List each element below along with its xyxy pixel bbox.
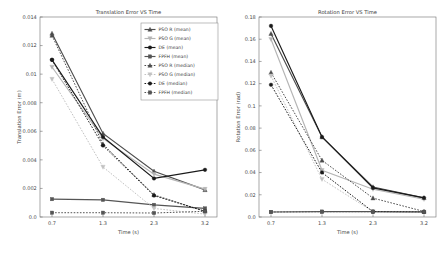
series-line (271, 26, 424, 198)
y-tick-label: 0.16 (245, 36, 256, 42)
legend-label: PSO G (mean) (159, 36, 192, 41)
translation-error-panel: Translation Error VS Time0.00.0020.0040.… (0, 0, 223, 253)
x-tick-label: 3.2 (201, 220, 209, 226)
series-line (271, 76, 424, 212)
y-tick-label: 0.12 (245, 80, 256, 86)
x-tick-label: 3.2 (420, 220, 428, 226)
figure-root: Translation Error VS Time0.00.0020.0040.… (0, 0, 446, 253)
legend-marker (148, 46, 152, 50)
y-axis-label-rotation: Rotation Error (rad) (235, 92, 241, 142)
y-tick-label: 0.1 (248, 103, 256, 109)
legend-label: FPFH (median) (159, 90, 193, 95)
data-point (50, 58, 54, 62)
legend-label: DE (mean) (159, 45, 184, 50)
x-axis-label-rotation: Time (s) (336, 229, 358, 235)
series-line (271, 73, 424, 212)
data-point (422, 210, 425, 213)
x-tick-label: 0.7 (48, 220, 56, 226)
y-tick-label: 0.014 (22, 14, 36, 20)
rotation-error-chart: Rotation Error VS Time0.00.020.040.060.0… (223, 0, 446, 253)
series-translation-3 (50, 197, 206, 210)
y-tick-label: 0.01 (26, 71, 37, 77)
series-line (271, 34, 424, 198)
legend-item[interactable]: DE (mean) (145, 45, 184, 50)
data-point (269, 83, 273, 87)
y-tick-label: 0.02 (245, 192, 256, 198)
legend-label: DE (median) (159, 81, 188, 86)
data-point (203, 168, 207, 172)
data-point (269, 70, 273, 74)
y-tick-label: 0.06 (245, 147, 256, 153)
data-point (320, 171, 324, 175)
legend-marker (148, 82, 152, 86)
series-line (271, 39, 424, 199)
data-point (371, 186, 375, 190)
y-axis-translation: 0.00.0020.0040.0060.0080.010.0120.014 (22, 14, 42, 220)
x-tick-label: 1.3 (318, 220, 326, 226)
y-tick-label: 0.04 (245, 169, 256, 175)
legend-box (141, 23, 218, 100)
x-tick-label: 0.7 (267, 220, 275, 226)
data-point (50, 197, 53, 200)
y-tick-label: 0.0 (29, 214, 37, 220)
data-point (152, 203, 155, 206)
x-tick-label: 2.3 (150, 220, 158, 226)
series-rotation-1 (269, 37, 426, 201)
x-axis-translation: 0.71.32.33.2 (48, 214, 209, 225)
y-axis-label-translation: Translation Error (m) (16, 90, 22, 144)
legend-marker (148, 55, 151, 58)
y-tick-label: 0.14 (245, 58, 256, 64)
y-tick-label: 0.004 (22, 157, 36, 163)
y-tick-label: 0.18 (245, 14, 256, 20)
series-rotation-2 (269, 24, 426, 200)
data-point (50, 77, 54, 81)
rotation-error-panel: Rotation Error VS Time0.00.020.040.060.0… (223, 0, 446, 253)
data-point (50, 211, 53, 214)
x-tick-label: 2.3 (369, 220, 377, 226)
x-tick-label: 1.3 (99, 220, 107, 226)
data-point (101, 198, 104, 201)
legend-marker (148, 91, 151, 94)
data-point (152, 177, 156, 181)
y-tick-label: 0.012 (22, 42, 36, 48)
legend-label: PSO G (median) (159, 72, 196, 77)
x-axis-rotation: 0.71.32.33.2 (267, 214, 428, 225)
data-point (101, 211, 104, 214)
legend-label: PSO R (median) (159, 63, 195, 68)
data-point (101, 135, 105, 139)
data-point (269, 31, 273, 35)
series-rotation-0 (269, 31, 426, 199)
y-tick-label: 0.002 (22, 185, 36, 191)
data-point (152, 194, 156, 198)
x-axis-label-translation: Time (s) (117, 229, 139, 235)
series-translation-7 (50, 210, 206, 215)
data-point (320, 210, 323, 213)
data-point (152, 211, 155, 214)
legend-label: FPFH (mean) (159, 54, 189, 59)
y-tick-label: 0.0 (248, 214, 256, 220)
legend[interactable]: PSO R (mean)PSO G (mean)DE (mean)FPFH (m… (141, 23, 218, 100)
data-point (269, 210, 272, 213)
data-point (371, 210, 374, 213)
legend-label: PSO R (mean) (159, 27, 191, 32)
y-tick-label: 0.008 (22, 100, 36, 106)
data-point (203, 210, 206, 213)
translation-error-chart: Translation Error VS Time0.00.0020.0040.… (0, 0, 223, 253)
data-point (101, 144, 105, 148)
data-point (269, 24, 273, 28)
data-point (320, 135, 324, 139)
data-point (320, 177, 324, 181)
chart-title-rotation: Rotation Error VS Time (318, 9, 377, 15)
plot-frame-rotation (259, 17, 436, 217)
data-point (422, 196, 426, 200)
y-tick-label: 0.006 (22, 128, 36, 134)
y-tick-label: 0.08 (245, 125, 256, 131)
data-point (269, 37, 273, 41)
chart-title-translation: Translation Error VS Time (95, 9, 161, 15)
